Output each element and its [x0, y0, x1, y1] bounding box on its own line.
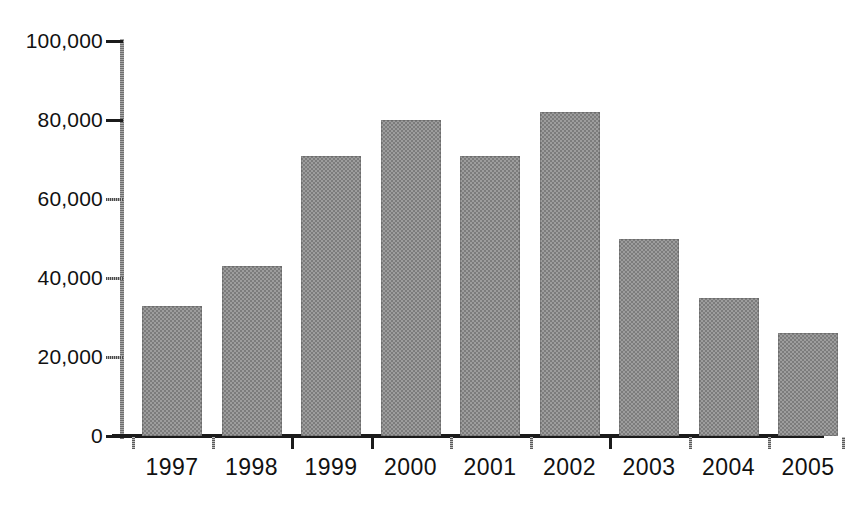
- x-axis-label-2004: 2004: [684, 456, 774, 479]
- x-axis-tick: [291, 437, 294, 449]
- y-axis-tick: [106, 356, 123, 359]
- x-axis-tick: [609, 437, 612, 449]
- bar-1998: [222, 266, 282, 436]
- y-axis-line: [120, 39, 124, 439]
- y-axis-label: 100,000: [7, 30, 103, 51]
- y-axis-label: 40,000: [7, 267, 103, 288]
- y-axis-tick: [106, 435, 123, 438]
- y-axis-label: 80,000: [7, 109, 103, 130]
- x-axis-label-1997: 1997: [127, 456, 217, 479]
- bar-2005: [778, 333, 838, 436]
- bar-1999: [301, 156, 361, 436]
- y-axis-tick: [106, 277, 123, 280]
- x-axis-tick: [768, 437, 771, 449]
- x-axis-tick: [689, 437, 692, 449]
- x-axis-tick-end: [842, 437, 845, 449]
- y-axis-tick: [106, 198, 123, 201]
- bar-1997: [142, 306, 202, 436]
- bar-2002: [540, 112, 600, 436]
- y-axis-label: 0: [7, 425, 103, 446]
- x-axis-label-1999: 1999: [286, 456, 376, 479]
- x-axis-tick: [212, 437, 215, 449]
- x-axis-label-2000: 2000: [366, 456, 456, 479]
- x-axis-label-2005: 2005: [763, 456, 853, 479]
- x-axis-label-2003: 2003: [604, 456, 694, 479]
- plot-area: 100,00080,00060,00040,00020,0000 1997199…: [0, 0, 866, 508]
- bar-2000: [381, 120, 441, 436]
- x-axis-tick: [450, 437, 453, 449]
- y-axis-label: 60,000: [7, 188, 103, 209]
- y-axis-label: 20,000: [7, 346, 103, 367]
- x-axis-tick: [530, 437, 533, 449]
- x-axis-label-2002: 2002: [525, 456, 615, 479]
- bar-2004: [699, 298, 759, 436]
- bar-2001: [460, 156, 520, 436]
- x-axis-tick: [371, 437, 374, 449]
- bar-chart: 100,00080,00060,00040,00020,0000 1997199…: [0, 0, 866, 508]
- y-axis-tick: [106, 119, 123, 122]
- x-axis-tick: [132, 437, 135, 449]
- x-axis-label-2001: 2001: [445, 456, 535, 479]
- y-axis-tick: [106, 40, 123, 43]
- bar-2003: [619, 239, 679, 437]
- x-axis-label-1998: 1998: [207, 456, 297, 479]
